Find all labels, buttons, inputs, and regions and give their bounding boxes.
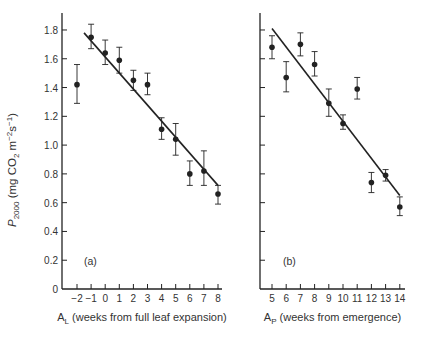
panel-a-plot: 00.20.40.60.81.01.21.41.61.8−2−101234567…: [44, 13, 227, 326]
y-tick-label: 0.4: [44, 226, 58, 237]
data-point: [215, 191, 221, 197]
regression-line: [272, 29, 400, 196]
x-tick-label: 2: [131, 293, 137, 304]
x-tick-label: 3: [145, 293, 151, 304]
y-axis-label: P2000 (mg CO2 m−2s−1): [5, 113, 21, 227]
x-tick-label: 5: [269, 293, 275, 304]
data-point: [397, 204, 403, 210]
x-tick-label: 11: [352, 293, 363, 304]
x-tick-label: 6: [283, 293, 289, 304]
y-tick-label: 1.6: [44, 54, 58, 65]
x-axis-label: AL (weeks from full leaf expansion): [57, 311, 227, 326]
x-tick-label: 9: [326, 293, 332, 304]
data-point: [283, 75, 289, 81]
panel-label: (a): [84, 255, 97, 267]
data-point: [269, 44, 275, 50]
data-point: [173, 137, 179, 143]
data-point: [102, 50, 108, 56]
x-tick-label: 0: [102, 293, 108, 304]
panel-b-plot: 567891011121314AP (weeks from emergence)…: [260, 13, 406, 326]
data-point: [383, 173, 389, 179]
y-tick-label: 0: [52, 284, 58, 295]
y-tick-label: 0.8: [44, 169, 58, 180]
data-point: [326, 101, 332, 107]
data-point: [74, 82, 80, 88]
y-tick-label: 0.2: [44, 255, 58, 266]
regression-line: [84, 33, 218, 186]
data-point: [298, 42, 304, 48]
x-tick-label: −2: [71, 293, 83, 304]
x-tick-label: 13: [380, 293, 392, 304]
data-point: [88, 34, 94, 40]
x-tick-label: 10: [337, 293, 349, 304]
x-tick-label: 7: [201, 293, 207, 304]
x-tick-label: 8: [215, 293, 221, 304]
data-point: [117, 57, 123, 63]
figure: 00.20.40.60.81.01.21.41.61.8−2−101234567…: [0, 0, 428, 338]
x-tick-label: 1: [117, 293, 123, 304]
data-point: [369, 180, 375, 186]
data-point: [201, 168, 207, 174]
x-tick-label: 7: [298, 293, 304, 304]
x-axis-label: AP (weeks from emergence): [264, 311, 401, 326]
data-point: [145, 82, 151, 88]
x-tick-label: 5: [173, 293, 179, 304]
x-tick-label: 8: [312, 293, 318, 304]
y-tick-label: 1.2: [44, 111, 58, 122]
x-tick-label: 12: [366, 293, 378, 304]
y-tick-label: 1.4: [44, 83, 58, 94]
data-point: [187, 171, 193, 177]
x-tick-label: 6: [187, 293, 193, 304]
y-tick-label: 0.6: [44, 198, 58, 209]
panel-label: (b): [283, 255, 296, 267]
x-tick-label: −1: [85, 293, 97, 304]
x-tick-label: 14: [394, 293, 406, 304]
data-point: [312, 62, 318, 68]
y-tick-label: 1.0: [44, 140, 58, 151]
data-point: [340, 121, 346, 127]
x-tick-label: 4: [159, 293, 165, 304]
y-tick-label: 1.8: [44, 25, 58, 36]
data-point: [354, 86, 360, 92]
data-point: [131, 78, 137, 84]
data-point: [159, 126, 165, 132]
